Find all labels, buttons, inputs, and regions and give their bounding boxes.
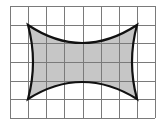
grid-diagram [0, 0, 158, 124]
grid-figure [0, 0, 158, 124]
